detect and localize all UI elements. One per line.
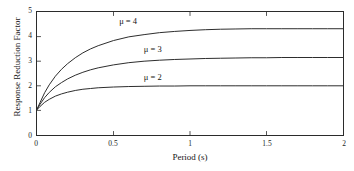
x-tick-label: 2 [342, 140, 346, 148]
x-tick-label: 1 [188, 140, 192, 148]
y-axis-title: Response Reduction Factor [12, 0, 22, 137]
x-axis-tick-labels: 00.511.52 [36, 140, 344, 151]
x-axis-title: Period (s) [36, 152, 344, 162]
curve-mu-=-4 [37, 29, 343, 109]
x-tick-label: 0.5 [108, 140, 117, 148]
chart-figure: 012345 Response Reduction Factor 00.511.… [0, 0, 354, 171]
curve-mu-=-3 [37, 58, 343, 110]
x-tick-label: 1.5 [262, 140, 271, 148]
curves-svg [37, 12, 343, 135]
series-annotation: μ = 4 [119, 17, 137, 26]
series-annotation: μ = 3 [144, 45, 162, 54]
x-tick-label: 0 [34, 140, 38, 148]
series-annotation: μ = 2 [144, 73, 162, 82]
curve-mu-=-2 [37, 86, 343, 110]
plot-area [36, 11, 344, 136]
